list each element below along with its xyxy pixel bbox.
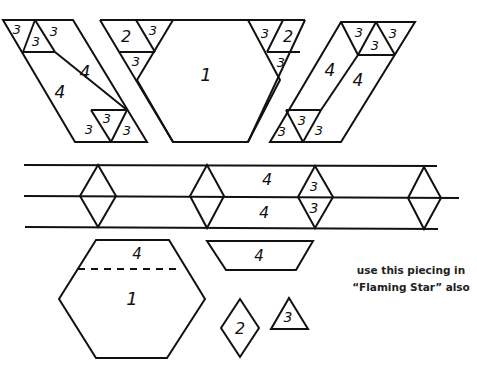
label-strip: 4 [262,170,272,189]
label-triangle: 3 [123,123,131,138]
label-strip: 4 [55,82,66,102]
label-hexagon: 1 [126,288,137,309]
label-trapezoid: 4 [254,247,264,265]
label-strip: 4 [325,60,336,80]
label-triangle: 3 [371,38,379,53]
label-triangle: 3 [310,179,318,194]
piecing-note: use this piecing in “Flaming Star” also [345,262,477,296]
template-hexagon: 4 1 [59,240,205,358]
label-hexagon: 1 [200,64,211,85]
label-diamond: 2 [235,319,245,338]
quilt-piecing-diagram: 3 3 3 4 4 3 3 3 2 3 3 1 3 2 3 [0,0,477,382]
label-triangle: 3 [389,26,397,41]
note-line-1: use this piecing in [345,262,477,279]
label-triangle: 3 [278,124,286,139]
label-triangle: 3 [261,26,269,41]
label-triangle: 3 [284,309,293,325]
note-line-2: “Flaming Star” also [345,279,477,296]
template-triangle: 3 [271,298,308,329]
label-strip: 4 [80,62,91,82]
label-triangle: 3 [355,25,363,40]
label-top-section: 4 [132,245,142,263]
label-strip: 4 [259,203,269,222]
label-triangle: 3 [277,55,285,70]
label-diamond: 2 [121,27,131,46]
label-triangle: 3 [103,111,111,126]
label-triangle: 3 [298,113,306,128]
label-triangle: 3 [85,122,93,137]
template-trapezoid: 4 [207,241,313,270]
template-diamond: 2 [221,299,259,357]
label-strip: 4 [353,70,364,90]
label-triangle: 3 [315,123,323,138]
label-triangle: 3 [310,200,319,216]
label-diamond: 2 [283,27,293,46]
label-triangle: 3 [13,22,21,37]
middle-strip-band: 4 4 3 3 [24,165,459,229]
label-triangle: 3 [132,54,140,69]
label-triangle: 3 [50,24,58,39]
label-triangle: 3 [32,34,40,49]
label-triangle: 3 [149,23,157,38]
